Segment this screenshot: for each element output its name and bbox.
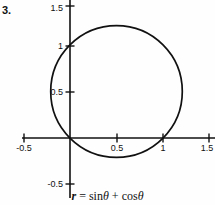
x-tick-label-neg-half: -0.5 — [16, 143, 32, 153]
equation-term2-fn: cos — [122, 189, 138, 203]
x-tick-label-one: 1 — [160, 143, 165, 153]
equation-equals: = — [79, 189, 86, 203]
equation-term1-arg: θ — [103, 189, 109, 203]
equation-term2-arg: θ — [138, 189, 144, 203]
equation-term1-fn: sin — [89, 189, 103, 203]
x-tick-label-one-half: 1.5 — [201, 143, 214, 153]
figure-container: 3. -0.5 0.5 1 1.5 -0.5 0.5 1 1.5 r = sin… — [0, 0, 215, 205]
equation-caption: r = sinθ + cosθ — [0, 189, 215, 204]
y-tick-label-half: 0.5 — [50, 87, 63, 97]
polar-plot: -0.5 0.5 1 1.5 -0.5 0.5 1 1.5 — [0, 0, 215, 205]
y-tick-label-one: 1 — [58, 41, 63, 51]
x-tick-label-half: 0.5 — [111, 143, 124, 153]
equation-lhs: r — [71, 189, 76, 203]
y-tick-label-neg-half: -0.5 — [47, 179, 63, 189]
equation-plus: + — [112, 189, 119, 203]
y-tick-label-one-half: 1.5 — [50, 3, 63, 13]
